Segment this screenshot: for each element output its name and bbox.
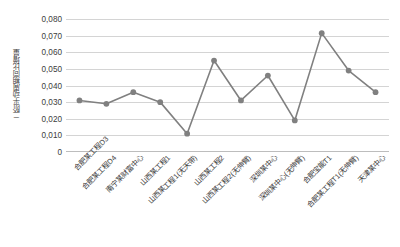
series-line (79, 33, 375, 134)
data-point[interactable] (157, 99, 163, 105)
data-point[interactable] (319, 30, 325, 36)
y-axis-tick-label: 0,080 (42, 15, 63, 24)
chart-container: 二阶平动周期同比增量 0,0800,0700,0600,0500,0400,03… (0, 0, 400, 247)
y-axis-tick-label: 0 (57, 148, 62, 157)
line-series (66, 19, 389, 152)
data-point[interactable] (184, 131, 190, 137)
x-axis-tick-labels: 合肥某工程D3合肥某工程D4南宁某财富中心山西某工程1山西某工程1(无天带)山西… (66, 152, 389, 247)
data-point[interactable] (211, 58, 217, 64)
y-axis-tick-label: 0,010 (42, 131, 63, 140)
data-point[interactable] (77, 98, 83, 104)
y-axis-tick-label: 0,020 (42, 114, 63, 123)
data-point[interactable] (373, 89, 379, 95)
data-point[interactable] (265, 73, 271, 79)
y-axis-tick-label: 0,070 (42, 31, 63, 40)
plot-area (66, 19, 389, 152)
y-axis-tick-labels: 0,0800,0700,0600,0500,0400,0300,0200,010… (22, 0, 64, 247)
data-point[interactable] (130, 89, 136, 95)
y-axis-tick-label: 0,040 (42, 81, 63, 90)
data-point[interactable] (103, 101, 109, 107)
data-point[interactable] (346, 68, 352, 74)
y-axis-tick-label: 0,060 (42, 48, 63, 57)
x-axis-tick-label: 合肥某工程D3 (71, 152, 91, 172)
y-axis-tick-label: 0,030 (42, 98, 63, 107)
data-point[interactable] (238, 98, 244, 104)
data-point[interactable] (292, 118, 298, 124)
y-axis-tick-label: 0,050 (42, 64, 63, 73)
